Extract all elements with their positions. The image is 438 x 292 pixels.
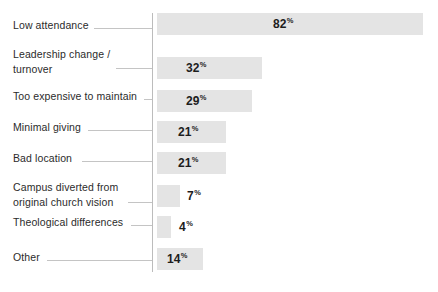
percent-sign: % xyxy=(186,219,193,228)
percent-sign: % xyxy=(192,124,199,133)
percent-sign: % xyxy=(194,188,201,197)
leader-line xyxy=(144,99,152,100)
leader-line xyxy=(94,28,152,29)
bar xyxy=(157,185,180,207)
bar-value-label: 14% xyxy=(167,248,188,270)
category-label: Too expensive to maintain xyxy=(13,89,145,104)
leader-line xyxy=(131,225,152,226)
bar-value-label: 4% xyxy=(179,216,193,238)
leader-line xyxy=(88,130,152,131)
bar-value-number: 21 xyxy=(178,156,191,170)
percent-sign: % xyxy=(287,16,294,25)
bar-value-number: 29 xyxy=(186,94,199,108)
bar-value-label: 21% xyxy=(178,152,199,174)
bar xyxy=(157,57,262,79)
bar-value-number: 14 xyxy=(167,252,180,266)
category-label: Bad location xyxy=(13,151,145,166)
category-label: Campus diverted from original church vis… xyxy=(13,180,145,210)
bar-value-number: 7 xyxy=(187,189,194,203)
leader-line xyxy=(116,68,152,69)
percent-sign: % xyxy=(200,60,207,69)
category-label: Leadership change / turnover xyxy=(13,47,145,77)
category-label: Low attendance xyxy=(13,18,145,33)
leader-line xyxy=(82,161,152,162)
leader-line xyxy=(128,202,152,203)
bar-value-label: 32% xyxy=(186,57,207,79)
leader-line xyxy=(47,260,152,261)
category-label: Minimal giving xyxy=(13,120,145,135)
bar-value-number: 21 xyxy=(178,125,191,139)
bar-value-label: 29% xyxy=(186,90,207,112)
category-label: Theological differences xyxy=(13,215,145,230)
bar-value-number: 4 xyxy=(179,220,186,234)
category-label: Other xyxy=(13,250,145,265)
bar-chart: Low attendance82%Leadership change / tur… xyxy=(0,0,438,292)
bar-value-number: 32 xyxy=(186,61,199,75)
bar-value-label: 82% xyxy=(273,13,294,35)
bar-value-number: 82 xyxy=(273,17,286,31)
chart-caption xyxy=(13,283,218,289)
percent-sign: % xyxy=(181,251,188,260)
bar-value-label: 7% xyxy=(187,185,201,207)
bar-value-label: 21% xyxy=(178,121,199,143)
percent-sign: % xyxy=(192,155,199,164)
chart-axis-line xyxy=(152,13,153,272)
bar xyxy=(157,216,171,238)
percent-sign: % xyxy=(200,93,207,102)
